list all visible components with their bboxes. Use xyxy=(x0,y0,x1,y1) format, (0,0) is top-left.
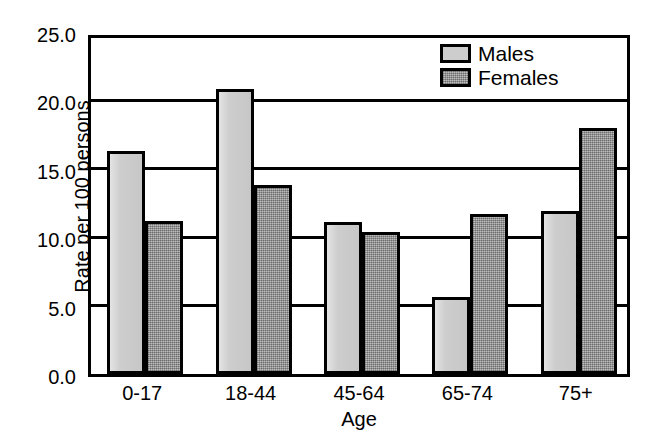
y-tick-label: 20.0 xyxy=(0,93,76,113)
legend-label-males: Males xyxy=(478,43,534,64)
y-tick-label: 0.0 xyxy=(0,367,76,387)
x-axis-tick-labels: 0-1718-4445-6465-7475+ xyxy=(88,381,630,409)
bar-females-0-17 xyxy=(145,221,183,374)
bar-males-45-64 xyxy=(324,222,362,374)
y-tick-label: 15.0 xyxy=(0,162,76,182)
bar-chart-figure: Rate per 100 persons 0.05.010.015.020.02… xyxy=(0,0,651,447)
bar-males-65-74 xyxy=(432,297,470,374)
x-tick-label-18-44: 18-44 xyxy=(191,381,311,405)
legend-item-females[interactable]: Females xyxy=(440,66,559,89)
y-tick-label: 5.0 xyxy=(0,299,76,319)
bar-females-75+ xyxy=(579,128,617,374)
bar-females-45-64 xyxy=(362,232,400,374)
bar-males-75+ xyxy=(541,211,579,374)
bar-females-18-44 xyxy=(254,185,292,374)
y-tick-label: 25.0 xyxy=(0,25,76,45)
y-axis-tick-labels: 0.05.010.015.020.025.0 xyxy=(0,35,84,377)
bar-males-0-17 xyxy=(107,151,145,374)
x-tick-label-0-17: 0-17 xyxy=(82,381,202,405)
legend-label-females: Females xyxy=(478,67,559,88)
legend-item-males[interactable]: Males xyxy=(440,42,559,65)
bar-females-65-74 xyxy=(470,214,508,374)
bar-males-18-44 xyxy=(216,89,254,374)
x-axis-label: Age xyxy=(88,408,630,430)
x-tick-label-75+: 75+ xyxy=(516,381,636,405)
legend-swatch-females-icon xyxy=(440,68,471,87)
y-tick-label: 10.0 xyxy=(0,230,76,250)
legend-swatch-males-icon xyxy=(440,44,471,63)
x-tick-label-65-74: 65-74 xyxy=(407,381,527,405)
x-tick-label-45-64: 45-64 xyxy=(299,381,419,405)
legend: Males Females xyxy=(440,42,559,90)
